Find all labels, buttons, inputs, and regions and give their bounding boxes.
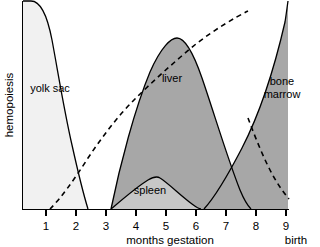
x-tick-label-8: 8 — [253, 220, 259, 232]
x-tick-label-1: 1 — [43, 220, 49, 232]
series-label-liver: liver — [162, 72, 183, 84]
chart-canvas: 1 2 3 4 5 6 7 8 9 months gestation birth… — [0, 0, 320, 247]
x-tick-label-6: 6 — [193, 220, 199, 232]
hemopoiesis-chart-figure: 1 2 3 4 5 6 7 8 9 months gestation birth… — [0, 0, 320, 247]
series-label-yolk-sac: yolk sac — [30, 82, 70, 94]
birth-annotation: birth — [285, 234, 307, 246]
x-tick-label-5: 5 — [163, 220, 169, 232]
x-tick-label-3: 3 — [103, 220, 109, 232]
x-tick-label-4: 4 — [133, 220, 140, 232]
x-axis-title: months gestation — [126, 234, 214, 246]
x-tick-label-7: 7 — [223, 220, 229, 232]
series-label-spleen: spleen — [134, 184, 166, 196]
series-label-bone-marrow-line2: marrow — [264, 88, 301, 100]
y-axis-title: hemopoiesis — [3, 72, 15, 137]
series-label-bone-marrow-line1: bone — [270, 75, 294, 87]
x-tick-label-2: 2 — [73, 220, 79, 232]
x-tick-label-9: 9 — [283, 220, 289, 232]
